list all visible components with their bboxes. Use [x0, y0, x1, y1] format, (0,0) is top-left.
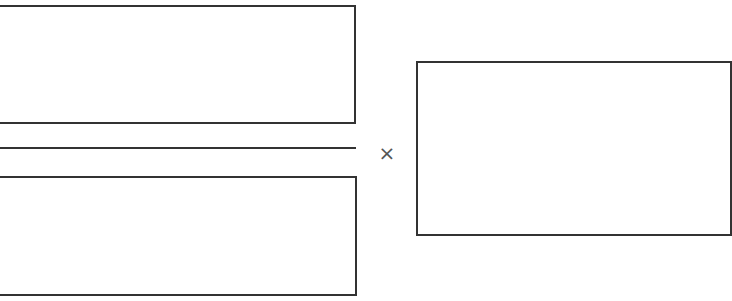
numerator-box[interactable]	[0, 5, 356, 124]
denominator-box[interactable]	[0, 176, 357, 296]
multiply-icon: ×	[377, 143, 397, 163]
fraction-bar	[0, 147, 356, 149]
multiplier-box[interactable]	[416, 61, 732, 236]
